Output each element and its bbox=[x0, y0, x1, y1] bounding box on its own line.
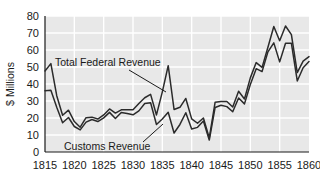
y-axis-title: $ Millions bbox=[4, 62, 16, 106]
y-tick-label: 50 bbox=[27, 61, 39, 73]
y-tick-label: 0 bbox=[33, 146, 39, 158]
series-annotation-label: Total Federal Revenue bbox=[55, 56, 161, 68]
y-tick-label: 70 bbox=[27, 27, 39, 39]
x-tick-label: 1855 bbox=[267, 159, 291, 171]
revenue-line-chart: 01020304050607080 1815182018251830183518… bbox=[0, 0, 320, 178]
y-tick-label: 20 bbox=[27, 112, 39, 124]
x-tick-label: 1825 bbox=[91, 159, 115, 171]
y-tick-label: 60 bbox=[27, 44, 39, 56]
x-tick-label: 1830 bbox=[121, 159, 145, 171]
x-tick-label: 1815 bbox=[33, 159, 57, 171]
x-tick-label: 1840 bbox=[179, 159, 203, 171]
x-tick-label: 1850 bbox=[238, 159, 262, 171]
x-axis-tick-labels: 1815182018251830183518401845185018551860 bbox=[33, 159, 320, 171]
y-tick-label: 30 bbox=[27, 95, 39, 107]
x-tick-label: 1845 bbox=[209, 159, 233, 171]
series-annotation-label: Customs Revenue bbox=[64, 140, 151, 152]
y-tick-label: 40 bbox=[27, 78, 39, 90]
x-tick-label: 1860 bbox=[297, 159, 320, 171]
y-tick-label: 80 bbox=[27, 10, 39, 22]
chart-page: 01020304050607080 1815182018251830183518… bbox=[0, 0, 320, 178]
y-tick-label: 10 bbox=[27, 129, 39, 141]
y-axis-tick-labels: 01020304050607080 bbox=[27, 10, 39, 158]
x-tick-label: 1820 bbox=[62, 159, 86, 171]
x-tick-label: 1835 bbox=[150, 159, 174, 171]
